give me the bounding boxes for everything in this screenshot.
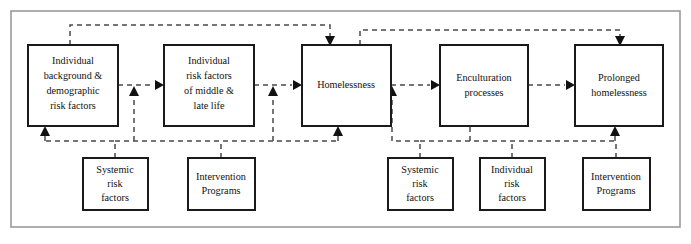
edge-midlate-bypass-to-prolonged bbox=[360, 30, 620, 45]
node-individual-risk-mid-late[interactable]: Individual risk factors of middle & late… bbox=[164, 45, 254, 126]
node-individual-background-line-0: Individual bbox=[52, 55, 94, 66]
node-intervention-programs-right-rect[interactable] bbox=[583, 158, 650, 210]
node-prolonged-homelessness-line-1: homelessness bbox=[591, 87, 646, 98]
arrowhead-left-bus-to-chain2 bbox=[268, 86, 278, 96]
arrowhead-left-bus-to-homelessness bbox=[333, 126, 343, 136]
edge-background-bypass-to-homelessness bbox=[70, 25, 330, 45]
node-homelessness[interactable]: Homelessness bbox=[302, 45, 391, 126]
node-individual-risk-factors-right-line-2: factors bbox=[498, 192, 526, 203]
node-systemic-risk-factors-right[interactable]: Systemic risk factors bbox=[388, 158, 453, 210]
edge-systemic-left-bus bbox=[45, 141, 115, 158]
node-individual-background-line-3: risk factors bbox=[50, 100, 96, 111]
node-individual-background-line-1: background & bbox=[44, 70, 103, 81]
node-systemic-risk-factors-left-line-0: Systemic bbox=[96, 164, 134, 175]
node-systemic-risk-factors-right-line-1: risk bbox=[412, 178, 428, 189]
node-enculturation-processes[interactable]: Enculturation processes bbox=[440, 45, 528, 126]
figure-container: Individual background & demographic risk… bbox=[0, 0, 691, 244]
arrowhead-right-bus-to-prolonged bbox=[610, 126, 620, 136]
node-systemic-risk-factors-left[interactable]: Systemic risk factors bbox=[83, 158, 148, 210]
node-individual-risk-mid-late-line-0: Individual bbox=[188, 55, 230, 66]
node-systemic-risk-factors-left-line-1: risk bbox=[107, 178, 123, 189]
node-intervention-programs-left-rect[interactable] bbox=[188, 158, 255, 210]
node-individual-risk-factors-right-line-0: Individual bbox=[491, 164, 533, 175]
node-intervention-programs-left-line-0: Intervention bbox=[196, 171, 246, 182]
node-intervention-programs-left[interactable]: Intervention Programs bbox=[188, 158, 255, 210]
node-individual-risk-factors-right-line-1: risk bbox=[504, 178, 520, 189]
arrowhead-left-bus-to-chain1 bbox=[129, 86, 139, 96]
node-prolonged-homelessness-line-0: Prolonged bbox=[598, 72, 640, 83]
node-individual-risk-mid-late-line-2: of middle & bbox=[184, 85, 234, 96]
node-individual-risk-mid-late-line-3: late life bbox=[194, 100, 225, 111]
arrowhead-background-to-midlate bbox=[155, 80, 164, 90]
node-homelessness-line-0: Homelessness bbox=[317, 79, 375, 90]
node-enculturation-processes-line-0: Enculturation bbox=[456, 72, 511, 83]
node-intervention-programs-right-line-0: Intervention bbox=[591, 171, 641, 182]
node-systemic-risk-factors-right-line-0: Systemic bbox=[401, 164, 439, 175]
modifier-row: Systemic risk factors Intervention Progr… bbox=[83, 158, 650, 210]
node-individual-risk-factors-right[interactable]: Individual risk factors bbox=[480, 158, 545, 210]
node-intervention-programs-right[interactable]: Intervention Programs bbox=[583, 158, 650, 210]
arrowhead-midlate-to-homelessness bbox=[293, 80, 302, 90]
node-intervention-programs-left-line-1: Programs bbox=[201, 185, 240, 196]
arrowhead-systemic-left-to-background bbox=[40, 126, 50, 136]
node-systemic-risk-factors-right-line-2: factors bbox=[406, 192, 434, 203]
arrowhead-homelessness-to-enculturation bbox=[431, 80, 440, 90]
node-intervention-programs-right-line-1: Programs bbox=[596, 185, 635, 196]
node-prolonged-homelessness-rect[interactable] bbox=[575, 45, 663, 126]
node-systemic-risk-factors-left-line-2: factors bbox=[101, 192, 129, 203]
node-individual-background[interactable]: Individual background & demographic risk… bbox=[28, 45, 118, 126]
node-enculturation-processes-line-1: processes bbox=[464, 87, 503, 98]
node-enculturation-processes-rect[interactable] bbox=[440, 45, 528, 126]
node-individual-background-line-2: demographic bbox=[46, 85, 100, 96]
node-prolonged-homelessness[interactable]: Prolonged homelessness bbox=[575, 45, 663, 126]
edge-systemic-right-bus bbox=[392, 141, 420, 158]
node-individual-risk-mid-late-line-1: risk factors bbox=[186, 70, 232, 81]
arrowhead-enculturation-to-prolonged bbox=[566, 80, 575, 90]
flow-diagram: Individual background & demographic risk… bbox=[0, 0, 691, 244]
